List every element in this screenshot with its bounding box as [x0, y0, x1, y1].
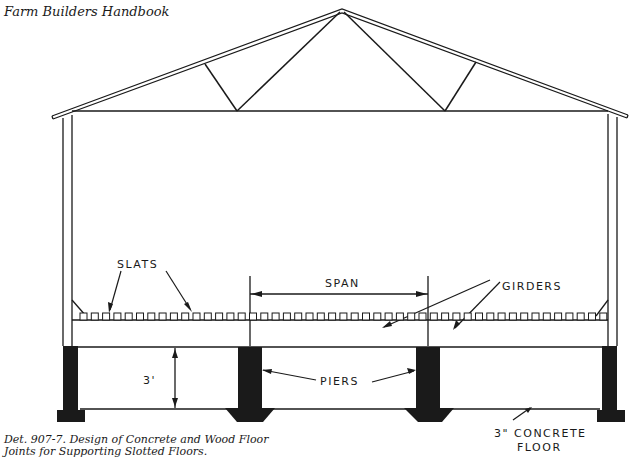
walls — [63, 114, 617, 346]
label-concrete-floor-line1: 3" CONCRETE — [494, 427, 587, 440]
handbook-page: Farm Builders Handbook — [0, 0, 634, 465]
label-concrete-floor-line2: FLOOR — [517, 441, 562, 454]
arrowheads — [108, 291, 532, 413]
slotted-floor-cross-section-diagram: SLATS SPAN GIRDERS 3' PIERS 3" CONCRETE … — [0, 0, 634, 465]
pier-right-wall — [597, 346, 625, 422]
label-slats: SLATS — [117, 258, 158, 271]
truss-webs — [205, 12, 476, 111]
figure-caption: Det. 907-7. Design of Concrete and Wood … — [4, 434, 364, 458]
pier-left-wall — [57, 346, 85, 422]
slat-deck — [72, 320, 608, 347]
pier-center-right — [404, 347, 454, 422]
label-girders: GIRDERS — [502, 280, 562, 293]
pier-center-left — [225, 347, 275, 422]
label-height: 3' — [143, 374, 156, 387]
roof-rafters — [52, 9, 628, 119]
slats-row — [80, 313, 607, 320]
label-span: SPAN — [325, 277, 360, 290]
label-piers: PIERS — [320, 375, 359, 388]
caption-line-2: Joints for Supporting Slotted Floors. — [4, 446, 364, 458]
